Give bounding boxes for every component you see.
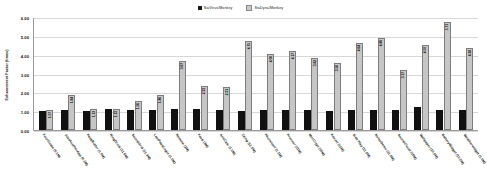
- bar-series-0: 1.08: [127, 110, 134, 130]
- bar-series-1: 3.82: [311, 58, 318, 130]
- bar-series-1: 4.64: [356, 43, 363, 130]
- bar-series-0: [193, 109, 200, 130]
- bar-series-1: 4.86: [378, 38, 385, 130]
- bar-value-label: 1.13: [114, 111, 118, 117]
- y-axis-tick-label: 2.00: [21, 91, 29, 96]
- bar-series-0: [238, 111, 245, 130]
- bar-value-label: 1.10: [107, 110, 111, 116]
- y-axis-tick-label: 0.00: [21, 129, 29, 134]
- x-axis-label-slot: Prunner (11M): [278, 131, 300, 193]
- x-axis-label: Feed (3M): [197, 133, 210, 149]
- bar-series-0: [304, 110, 311, 130]
- bar-value-label: 1.08: [129, 110, 133, 116]
- x-axis-label-slot: JustAnotherApp (0.1M): [56, 131, 78, 193]
- bar-series-0: 1.07: [61, 110, 68, 130]
- bar-value-label: 1.13: [92, 111, 96, 117]
- bar-series-1: 1.84: [68, 95, 75, 130]
- bar-series-1: 1.13: [113, 109, 120, 130]
- x-axis-label-slot: Sisk Play (11.0M): [344, 131, 366, 193]
- bar-group: 3.82: [300, 18, 322, 130]
- bar-series-1: 4.17: [289, 51, 296, 130]
- bar-group: 2.33: [190, 18, 212, 130]
- bar-group: 1.86: [145, 18, 167, 130]
- bar-value-label: 3.56: [335, 65, 339, 71]
- x-axis-label-slot: Weatherwidget (1.0M): [455, 131, 477, 193]
- bar-series-0: 1.10: [105, 109, 112, 130]
- bar-series-0: [260, 110, 267, 130]
- bar-value-label: 4.75: [247, 42, 251, 48]
- y-axis-tick-label: 3.00: [21, 72, 29, 77]
- legend-swatch-series-0: [198, 6, 202, 10]
- y-axis-tick-label: 6.00: [21, 16, 29, 21]
- x-axis-label-slot: AntiCalc (1.0M): [211, 131, 233, 193]
- bar-value-label: 4.64: [357, 44, 361, 50]
- bar-value-label: 4.17: [291, 53, 295, 59]
- bar-group: 4.38: [455, 18, 477, 130]
- x-axis-label-slot: Zxing (11.0M): [233, 131, 255, 193]
- bar-group: 4.50: [411, 18, 433, 130]
- bar-value-label: 4.50: [423, 47, 427, 53]
- bar-group: 4.75: [234, 18, 256, 130]
- bar-group: 5.71: [433, 18, 455, 130]
- bar-group: 3.67: [168, 18, 190, 130]
- bar-series-0: [414, 107, 421, 130]
- bar-value-label: 1.07: [48, 112, 52, 118]
- bar-group: 1.071.84: [57, 18, 79, 130]
- bar-series-0: [149, 110, 156, 130]
- bar-series-1: 5.71: [444, 22, 451, 130]
- bar-series-0: [282, 110, 289, 130]
- bar-value-label: 1.56: [136, 102, 140, 108]
- bar-series-0: [216, 110, 223, 130]
- legend-label-series-1: StaDyna/Monkey: [254, 6, 283, 10]
- bar-value-label: 4.06: [269, 55, 273, 61]
- bar-value-label: 1.03: [84, 111, 88, 117]
- bar-series-1: 3.56: [334, 63, 341, 130]
- bar-series-1: 3.67: [179, 61, 186, 130]
- bar-series-0: [348, 110, 355, 130]
- x-axis-label-slot: LastPassLogin (1.0M): [145, 131, 167, 193]
- bar-series-0: [392, 110, 399, 130]
- bar-series-0: [436, 110, 443, 130]
- legend-item-series-0: NaiVirus/Monkey: [198, 6, 233, 10]
- bar-value-label: 1.84: [70, 97, 74, 103]
- bar-series-1: 2.33: [201, 86, 208, 130]
- legend-swatch-series-1: [246, 5, 252, 11]
- plot-area: 1.001.071.071.841.031.131.101.131.081.56…: [33, 18, 478, 131]
- x-axis-label-slot: BatteryWidget (10.0M): [433, 131, 455, 193]
- bar-value-label: 1.86: [158, 97, 162, 103]
- legend-item-series-1: StaDyna/Monkey: [246, 5, 283, 11]
- bar-value-label: 1.07: [62, 111, 66, 117]
- bar-series-0: 1.00: [39, 111, 46, 130]
- bar-series-1: 1.13: [90, 109, 97, 130]
- bar-value-label: 3.17: [401, 72, 405, 78]
- x-axis-label: Weatherwidget (1.0M): [463, 133, 487, 165]
- x-axis-label-slot: MozCrypt (10M): [300, 131, 322, 193]
- bar-value-label: 3.67: [180, 63, 184, 69]
- x-axis-label: Remote (2M): [175, 133, 190, 152]
- y-axis-tick-label: 4.00: [21, 53, 29, 58]
- bar-group: 4.86: [366, 18, 388, 130]
- bar-series-1: 4.38: [466, 48, 473, 130]
- bar-group: 4.64: [344, 18, 366, 130]
- x-axis-label-slot: Wallpaper (10.0M): [411, 131, 433, 193]
- bar-series-1: 1.07: [46, 110, 53, 130]
- chart-legend: NaiVirus/Monkey StaDyna/Monkey: [0, 3, 481, 13]
- bar-group: 1.001.07: [35, 18, 57, 130]
- bar-group: 4.17: [278, 18, 300, 130]
- x-axis-label: Keezel (11M): [330, 133, 345, 152]
- bar-group: 2.31: [212, 18, 234, 130]
- y-axis-tick-label: 1.00: [21, 110, 29, 115]
- x-axis-label-slot: Feed (3M): [189, 131, 211, 193]
- bar-series-0: [459, 110, 466, 130]
- x-axis-label-slot: NoiseDemo (11.0M): [366, 131, 388, 193]
- bar-group: 3.56: [322, 18, 344, 130]
- x-axis-label-slot: SoundGrid (11.3M): [123, 131, 145, 193]
- x-axis-label-slot: PassButler (1.0M): [78, 131, 100, 193]
- bar-group: 1.081.56: [123, 18, 145, 130]
- bar-series-1: 4.06: [267, 54, 274, 130]
- bar-series-1: 1.56: [135, 101, 142, 130]
- bar-value-label: 5.71: [445, 24, 449, 30]
- bar-series-1: 2.31: [223, 87, 230, 131]
- bar-group: 4.06: [256, 18, 278, 130]
